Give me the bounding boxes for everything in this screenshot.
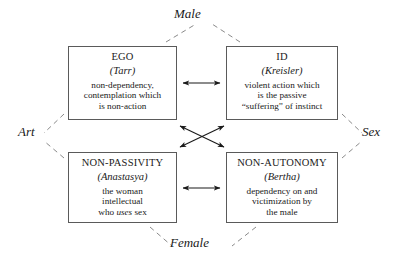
node-desc-non-passivity-line3: who uses sex	[98, 207, 147, 218]
axis-label-art: Art	[18, 124, 35, 140]
node-box-non-passivity: NON-PASSIVITY (Anastasya) the woman inte…	[68, 152, 177, 223]
axis-label-male: Male	[174, 6, 201, 22]
axis-label-sex: Sex	[362, 124, 380, 140]
node-box-non-autonomy: NON-AUTONOMY (Bertha) dependency on and …	[226, 152, 338, 223]
node-alias-non-autonomy: (Bertha)	[264, 172, 300, 183]
dashed-ego-art	[44, 114, 64, 133]
node-alias-id: (Kreisler)	[261, 66, 302, 77]
node-alias-non-passivity: (Anastasya)	[97, 172, 147, 183]
node-title-id: ID	[276, 52, 287, 63]
dashed-nonautonomy-female	[232, 227, 256, 246]
dashed-nonautonomy-sex	[342, 141, 362, 158]
node-alias-ego: (Tarr)	[110, 66, 135, 77]
node-title-non-autonomy: NON-AUTONOMY	[237, 158, 327, 169]
edge-layer	[0, 0, 408, 266]
node-box-ego: EGO (Tarr) non-dependency, contemplation…	[68, 46, 177, 120]
dashed-id-male	[212, 24, 240, 42]
node-desc-non-autonomy: dependency on and victimization by the m…	[244, 186, 321, 219]
dashed-id-sex	[342, 114, 362, 133]
node-title-ego: EGO	[111, 52, 133, 63]
dashed-nonpassivity-female	[150, 227, 172, 246]
node-desc-id: violent action which is the passive “suf…	[239, 80, 325, 113]
node-box-id: ID (Kreisler) violent action which is th…	[226, 46, 338, 120]
node-desc-non-passivity: the woman intellectual who uses sex	[95, 186, 150, 219]
node-desc-ego: non-dependency, contemplation which is n…	[81, 80, 164, 113]
dashed-nonpassivity-art	[44, 141, 64, 158]
axis-label-female: Female	[170, 235, 209, 251]
semiotic-square-diagram: EGO (Tarr) non-dependency, contemplation…	[0, 0, 408, 266]
node-title-non-passivity: NON-PASSIVITY	[82, 158, 164, 169]
dashed-ego-male	[166, 24, 196, 42]
